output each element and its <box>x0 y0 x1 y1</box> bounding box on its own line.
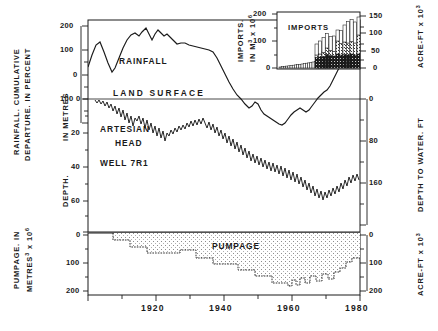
depth-to-water-axis-ticks <box>360 99 367 225</box>
imports-tick-0: 0 <box>266 63 271 72</box>
depth-tick-60: 60 <box>71 196 80 205</box>
artesian-annotation-line2: HEAD <box>115 138 142 148</box>
year-label-1980: 1980 <box>345 303 369 313</box>
artesian-annotation-line1: ARTESIAN <box>100 124 150 134</box>
imports-right-tick-100: 100 <box>369 28 383 37</box>
pumpage-right-tick-200: 200 <box>369 286 383 295</box>
imports-acre-ft-axis-title: ACRE-FT x 103 <box>415 4 425 68</box>
pumpage-axis-title-line2: METRES3 x 106 <box>24 227 34 292</box>
imports-right-tick-150: 150 <box>369 11 383 20</box>
pumpage-tick-0: 0 <box>76 230 81 239</box>
pumpage-unit-exp: 3 <box>24 252 30 256</box>
depth-metres-axis-ticks <box>83 99 88 232</box>
artesian-head-curve <box>95 100 359 200</box>
year-label-1920: 1920 <box>141 303 165 313</box>
imports-tick-200: 200 <box>253 9 267 18</box>
pumpage-unit-exp2: 6 <box>24 227 30 231</box>
year-label-1940: 1940 <box>209 303 233 313</box>
rainfall-tick-m100: 100 <box>60 94 74 103</box>
pumpage-annotation: PUMPAGE <box>212 241 260 251</box>
pumpage-unit-base: METRES <box>25 256 34 292</box>
year-label-1960: 1960 <box>277 303 301 313</box>
rainfall-tick-100: 100 <box>60 45 74 54</box>
imports-right-tick-0: 0 <box>373 63 378 72</box>
pumpage-acre-ft-axis-title: ACRE-FT x 103 <box>415 232 425 296</box>
acre-ft-base: ACRE-FT x 10 <box>416 8 425 68</box>
depth-tick-20: 20 <box>71 128 80 137</box>
rainfall-annotation: RAINFALL <box>119 56 168 66</box>
imports-annotation: IMPORTS <box>288 23 329 32</box>
imports-right-axis-ticks <box>360 16 366 68</box>
depth-water-tick-80: 80 <box>369 136 378 145</box>
year-axis-ticks <box>88 295 360 301</box>
artesian-annotation-line3: WELL 7R1 <box>100 158 148 168</box>
rainfall-tick-200: 200 <box>60 21 74 30</box>
depth-water-tick-0: 0 <box>369 94 374 103</box>
depth-water-tick-160: 160 <box>369 178 383 187</box>
imports-unit-base: IN M <box>248 43 257 62</box>
rainfall-tick-0: 0 <box>73 70 78 79</box>
land-surface-annotation: LAND SURFACE <box>113 88 205 98</box>
hydrograph-figure: RAINFALL. CUMULATIVE DEPARTURE. IN PERCE… <box>0 0 438 331</box>
pumpage-tick-200: 200 <box>66 286 80 295</box>
pumpage-right-tick-0: 0 <box>369 230 374 239</box>
pumpage-unit-tail: x 10 <box>25 231 34 252</box>
pumpage-right-tick-100: 100 <box>369 258 383 267</box>
depth-tick-40: 40 <box>71 162 80 171</box>
depth-to-water-axis-title: DEPTH TO WATER. FT <box>416 117 425 212</box>
depth-tick-0: 0 <box>76 94 81 103</box>
pumpage-axis-title-line1: PUMPAGE. IN <box>12 231 21 289</box>
acre-ft-exp: 3 <box>415 4 421 8</box>
pumpage-right-axis-ticks <box>360 235 367 291</box>
acre-ft-base-2: ACRE-FT x 10 <box>416 236 425 296</box>
rainfall-axis-ticks <box>81 26 88 123</box>
imports-axis-title-line1: IMPORTS. <box>236 19 245 62</box>
depth-axis-title: DEPTH. <box>61 174 70 207</box>
imports-tick-100: 100 <box>253 36 267 45</box>
rainfall-axis-title-line2: DEPARTURE. IN PERCENT <box>23 48 32 161</box>
imports-right-tick-50: 50 <box>371 46 380 55</box>
acre-ft-exp-2: 3 <box>415 232 421 236</box>
pumpage-left-axis-ticks <box>83 235 88 291</box>
pumpage-tick-100: 100 <box>66 258 80 267</box>
rainfall-axis-title-line1: RAINFALL. CUMULATIVE <box>12 48 21 155</box>
imports-left-axis-ticks <box>272 14 277 68</box>
